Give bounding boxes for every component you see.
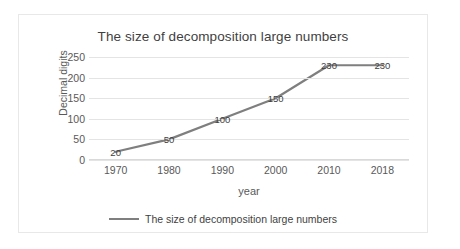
y-tick-label: 100 [67,113,85,125]
y-tick-label: 150 [67,92,85,104]
x-tick-label: 1990 [211,164,234,176]
chart-container: The size of decomposition large numbers … [18,14,428,233]
legend-line-swatch [109,218,139,221]
x-axis-tick-labels: 197019801990200020102018 [89,164,409,180]
x-axis-title: year [89,185,409,197]
gridline [89,160,409,161]
x-tick-label: 2000 [264,164,287,176]
legend-label: The size of decomposition large numbers [145,213,337,225]
series-line [89,57,409,160]
x-tick-label: 1970 [104,164,127,176]
x-tick-label: 1980 [157,164,180,176]
y-tick-label: 200 [67,72,85,84]
plot-area: 2050100150230230 [89,57,409,160]
y-tick-label: 0 [79,154,85,166]
chart-title: The size of decomposition large numbers [19,29,427,44]
x-tick-label: 2018 [371,164,394,176]
gridline [89,139,409,140]
y-tick-label: 50 [73,133,85,145]
chart-legend: The size of decomposition large numbers [19,213,427,225]
gridline [89,98,409,99]
gridline [89,78,409,79]
gridline [89,57,409,58]
y-axis-tick-labels: 250200150100500 [49,57,85,160]
gridline [89,119,409,120]
y-tick-label: 250 [67,51,85,63]
x-tick-label: 2010 [317,164,340,176]
